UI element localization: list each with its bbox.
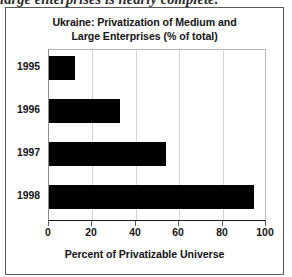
x-tick-label-100: 100	[256, 227, 273, 238]
x-tick-0	[48, 221, 49, 226]
chart-title-line-2: Large Enterprises (% of total)	[6, 30, 283, 44]
bar-1998	[49, 185, 254, 209]
bar-row-1995	[49, 56, 75, 80]
bar-row-1997	[49, 142, 166, 166]
chart-title-line-1: Ukraine: Privatization of Medium and	[6, 16, 283, 30]
y-axis-label-1996: 1996	[17, 98, 40, 122]
bar-series	[49, 50, 265, 220]
x-tick-label-60: 60	[172, 227, 184, 238]
bar-row-1996	[49, 99, 120, 123]
x-tick-100	[265, 221, 266, 226]
x-axis-title: Percent of Privatizable Universe	[6, 248, 283, 260]
x-tick-label-20: 20	[85, 227, 97, 238]
bar-1997	[49, 142, 166, 166]
bar-1995	[49, 56, 75, 80]
bar-1996	[49, 99, 120, 123]
figure-page: large enterprises is nearly complete. Uk…	[0, 0, 292, 277]
y-axis-label-1998: 1998	[17, 184, 40, 208]
x-tick-40	[135, 221, 136, 226]
x-tick-20	[91, 221, 92, 226]
x-tick-label-80: 80	[216, 227, 228, 238]
chart-title: Ukraine: Privatization of Medium and Lar…	[6, 16, 283, 43]
x-tick-80	[222, 221, 223, 226]
x-tick-label-0: 0	[45, 227, 51, 238]
bar-row-1998	[49, 185, 254, 209]
x-tick-60	[178, 221, 179, 226]
x-tick-label-40: 40	[129, 227, 141, 238]
y-axis-label-1995: 1995	[17, 55, 40, 79]
y-axis-label-1997: 1997	[17, 141, 40, 165]
y-axis-category-labels: 1995 1996 1997 1998	[6, 49, 46, 221]
chart-figure-frame: Ukraine: Privatization of Medium and Lar…	[5, 7, 284, 275]
x-axis-tick-labels: 0 20 40 60 80 100	[48, 227, 266, 243]
plot-area	[48, 49, 266, 221]
